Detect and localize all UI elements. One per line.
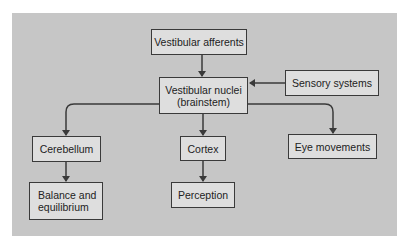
node-label: Perception <box>178 189 228 201</box>
node-label: Vestibular nuclei (brainstem) <box>165 84 241 108</box>
node-label: Vestibular afferents <box>154 36 244 48</box>
node-label: Cerebellum <box>40 143 94 155</box>
node-cortex: Cortex <box>180 136 226 161</box>
node-balance-and-equilibrium: Balance and equilibrium <box>29 182 103 220</box>
node-label: Sensory systems <box>292 77 372 89</box>
node-perception: Perception <box>171 182 235 208</box>
node-vestibular-nuclei: Vestibular nuclei (brainstem) <box>159 77 248 114</box>
node-label: Balance and equilibrium <box>38 189 96 213</box>
node-cerebellum: Cerebellum <box>32 136 101 162</box>
node-label: Eye movements <box>295 141 370 153</box>
edge-nuclei-to-cerebellum <box>66 104 159 135</box>
node-label: Cortex <box>188 143 219 155</box>
edge-nuclei-to-eye-movements <box>248 104 333 133</box>
node-sensory-systems: Sensory systems <box>285 70 379 96</box>
node-vestibular-afferents: Vestibular afferents <box>151 29 247 55</box>
node-eye-movements: Eye movements <box>288 134 377 159</box>
